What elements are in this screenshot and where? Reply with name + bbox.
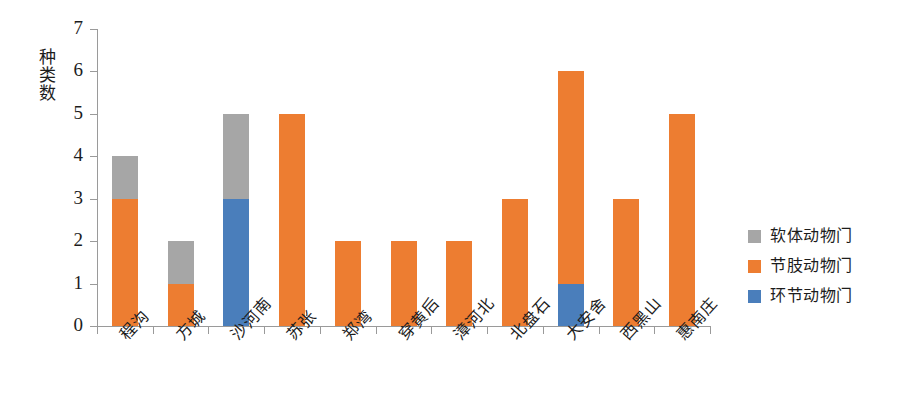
bar-group[interactable]: [669, 114, 695, 326]
y-tick: 6: [90, 71, 97, 72]
bar-segment[interactable]: [223, 114, 249, 199]
y-tick: 1: [90, 284, 97, 285]
bar-segment[interactable]: [558, 71, 584, 283]
legend-label: 环节动物门: [770, 287, 853, 305]
bar-segment[interactable]: [502, 199, 528, 326]
bar-segment[interactable]: [168, 241, 194, 283]
legend-label: 软体动物门: [770, 227, 853, 245]
stacked-bar-chart: 种类数 01234567 程沟方城沙河南苏张郑湾穿黄后漳河北北盘石大安舍西黑山惠…: [0, 0, 910, 420]
x-axis-labels: 程沟方城沙河南苏张郑湾穿黄后漳河北北盘石大安舍西黑山惠南庄: [97, 330, 710, 420]
x-tick: [710, 327, 711, 334]
bar-group[interactable]: [223, 114, 249, 326]
legend-swatch-icon: [748, 290, 761, 303]
bar-group[interactable]: [502, 199, 528, 326]
legend-item[interactable]: 软体动物门: [748, 221, 853, 251]
y-tick: 7: [90, 29, 97, 30]
y-tick-label: 2: [74, 230, 84, 250]
legend-item[interactable]: 环节动物门: [748, 281, 853, 311]
y-tick-label: 1: [74, 273, 84, 293]
legend-swatch-icon: [748, 230, 761, 243]
bar-segment[interactable]: [613, 199, 639, 326]
y-axis-title: 种类数: [30, 48, 56, 102]
y-tick-label: 7: [74, 18, 84, 38]
y-tick-label: 0: [74, 315, 84, 335]
y-tick: 3: [90, 199, 97, 200]
legend-item[interactable]: 节肢动物门: [748, 251, 853, 281]
bar-group[interactable]: [558, 71, 584, 326]
chart-legend: 软体动物门节肢动物门环节动物门: [748, 221, 853, 311]
bar-segment[interactable]: [223, 199, 249, 326]
y-tick-label: 3: [74, 188, 84, 208]
legend-label: 节肢动物门: [770, 257, 853, 275]
y-tick: 5: [90, 114, 97, 115]
bar-group[interactable]: [112, 156, 138, 326]
y-tick: 4: [90, 156, 97, 157]
y-tick-label: 4: [74, 145, 84, 165]
plot-area: 01234567: [97, 29, 710, 326]
bar-group[interactable]: [613, 199, 639, 326]
bar-segment[interactable]: [279, 114, 305, 326]
y-tick-label: 5: [74, 103, 84, 123]
y-tick: 0: [90, 326, 97, 327]
y-tick-label: 6: [74, 60, 84, 80]
y-tick: 2: [90, 241, 97, 242]
bar-segment[interactable]: [112, 199, 138, 326]
legend-swatch-icon: [748, 260, 761, 273]
bar-series-container: [97, 29, 710, 326]
bar-group[interactable]: [279, 114, 305, 326]
bar-segment[interactable]: [669, 114, 695, 326]
bar-segment[interactable]: [112, 156, 138, 198]
